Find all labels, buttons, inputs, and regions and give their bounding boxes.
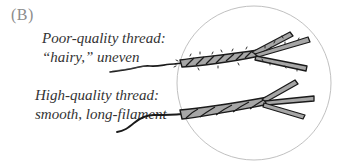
- poor-quality-thread-icon: [110, 32, 310, 72]
- thread-illustration: [0, 0, 337, 166]
- magnifier-circle: [177, 6, 331, 160]
- high-quality-thread-icon: [117, 80, 314, 132]
